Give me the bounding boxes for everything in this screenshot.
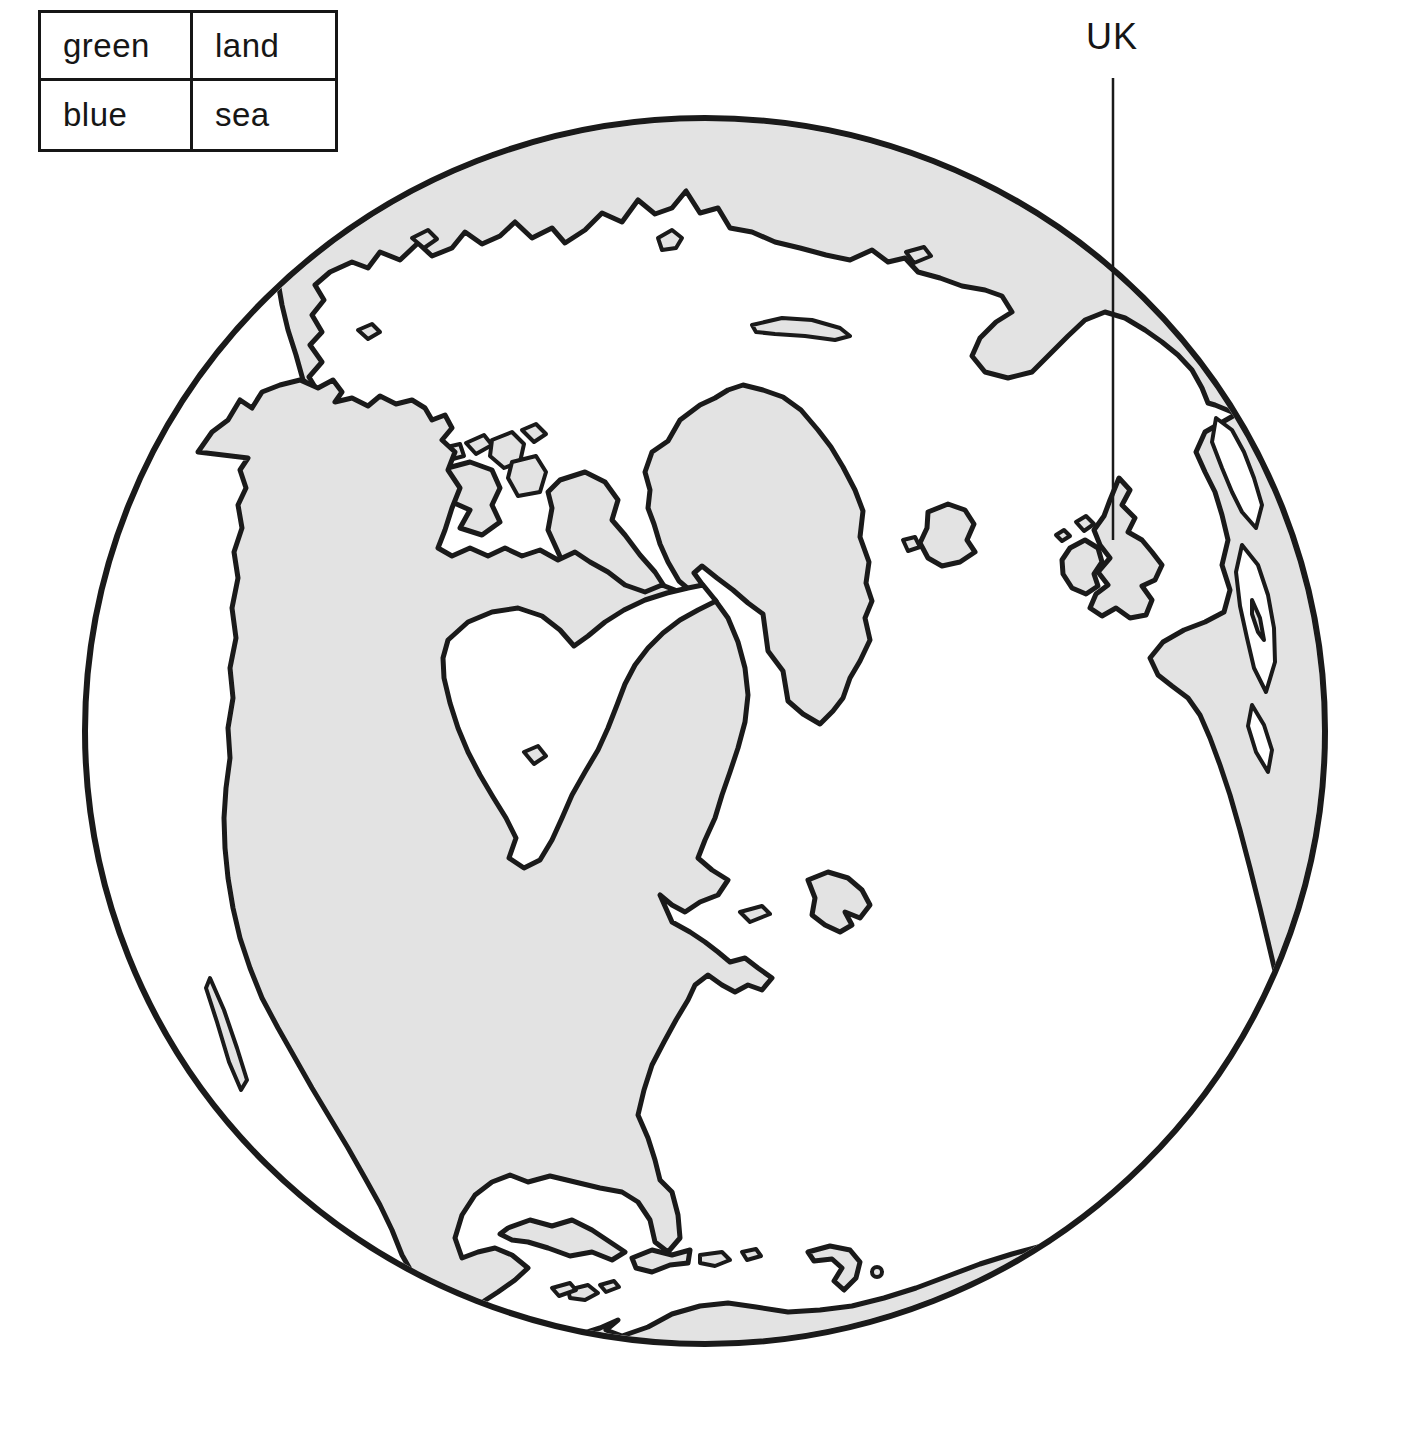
island-leeward xyxy=(742,1249,761,1260)
island-hebrides-2 xyxy=(1056,530,1070,541)
land-iceland xyxy=(920,504,975,566)
island-puerto-rico xyxy=(700,1252,730,1266)
land-ireland xyxy=(1062,540,1102,594)
globe-map xyxy=(0,0,1414,1436)
island-iceland-islet xyxy=(903,537,920,551)
island-antilles-dot xyxy=(872,1267,882,1277)
island-devon xyxy=(508,456,546,496)
